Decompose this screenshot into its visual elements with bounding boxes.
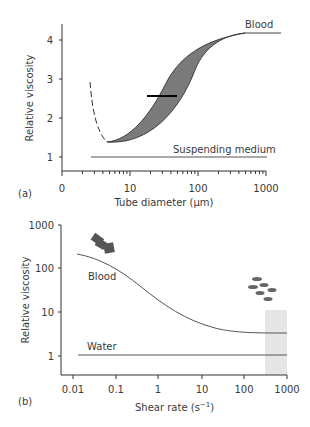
x-tick-100-b: 100 (234, 384, 253, 395)
x-tick-10-b: 10 (196, 384, 209, 395)
y-tick-4: 4 (47, 35, 53, 46)
panel-label-b: (b) (18, 396, 32, 407)
x-tick-0.1: 0.1 (108, 384, 124, 395)
x-axis-label-a: Tube diameter (µm) (113, 197, 213, 208)
blood-viscosity-band (107, 33, 245, 142)
blood-small-tube-dashed (90, 82, 107, 142)
x-tick-0.01: 0.01 (62, 384, 84, 395)
blood-curve-b (77, 254, 287, 333)
x-tick-1000: 1000 (253, 183, 278, 194)
water-label: Water (87, 341, 117, 352)
blood-label-a: Blood (245, 19, 273, 30)
y-axis-label-b: Relative viscosity (20, 256, 31, 343)
panel-b: 1000 100 10 1 0.01 0.1 1 10 100 1000 Rel… (18, 220, 300, 413)
y-axis-label-a: Relative viscosity (24, 54, 35, 141)
x-tick-1000-b: 1000 (274, 384, 299, 395)
y-tick-2: 2 (47, 113, 53, 124)
x-ticks-a (62, 171, 266, 176)
x-ticks-b (73, 375, 287, 379)
x-tick-10: 10 (124, 183, 137, 194)
y-tick-1000: 1000 (29, 220, 54, 231)
blood-label-b: Blood (88, 271, 116, 282)
x-tick-0: 0 (59, 183, 65, 194)
high-shear-shade (265, 310, 287, 375)
x-axis-label-b: Shear rate (s−1) (135, 401, 214, 413)
aggregated-rbc-icon (91, 233, 115, 254)
panel-label-a: (a) (18, 188, 32, 199)
figure: 4 3 2 1 (0, 0, 310, 427)
panel-a: 4 3 2 1 (18, 19, 281, 208)
x-tick-1: 1 (155, 384, 161, 395)
y-tick-1: 1 (47, 152, 53, 163)
suspending-medium-label: Suspending medium (173, 144, 276, 155)
dispersed-rbc-icon (248, 277, 277, 301)
y-tick-3: 3 (47, 74, 53, 85)
x-tick-100: 100 (188, 183, 207, 194)
y-tick-100: 100 (35, 263, 54, 274)
y-tick-1-b: 1 (48, 351, 54, 362)
y-tick-10: 10 (41, 307, 54, 318)
